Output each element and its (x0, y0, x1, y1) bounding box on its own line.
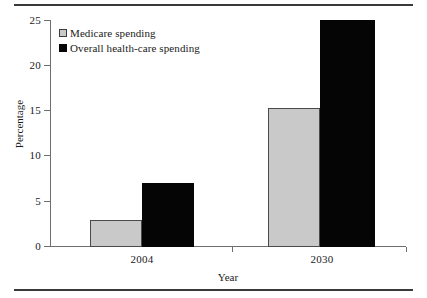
y-tick-label-0: 0 (11, 241, 41, 252)
legend-label-medicare: Medicare spending (70, 27, 156, 39)
x-axis-title: Year (50, 271, 406, 283)
bar-chart-plot-area: 0 5 10 15 20 25 2004 2030 Year Percentag… (0, 0, 427, 298)
x-end-tick (406, 247, 407, 252)
y-tick-mark-0 (44, 246, 50, 247)
legend-item-overall: Overall health-care spending (59, 41, 200, 55)
y-tick-mark-5 (44, 201, 50, 202)
y-tick-mark-15 (44, 110, 50, 111)
y-axis-line (50, 20, 51, 247)
chart-legend: Medicare spending Overall health-care sp… (59, 26, 200, 56)
y-tick-label-5: 5 (11, 196, 41, 207)
figure: 0 5 10 15 20 25 2004 2030 Year Percentag… (0, 0, 427, 298)
bar-overall-2030 (320, 20, 375, 247)
bar-overall-2004 (142, 183, 194, 247)
y-tick-mark-20 (44, 65, 50, 66)
y-axis-title: Percentage (13, 79, 25, 169)
y-tick-label-20: 20 (11, 60, 41, 71)
y-tick-label-25: 25 (11, 15, 41, 26)
bar-medicare-2004 (90, 220, 142, 247)
x-tick-label-2004: 2004 (107, 253, 177, 265)
legend-swatch-black-square-icon (59, 44, 67, 52)
y-tick-mark-10 (44, 155, 50, 156)
x-separator-tick (232, 247, 233, 252)
x-tick-label-2030: 2030 (287, 253, 357, 265)
bar-medicare-2030 (268, 108, 320, 247)
legend-item-medicare: Medicare spending (59, 26, 200, 40)
legend-label-overall: Overall health-care spending (70, 42, 200, 54)
y-tick-mark-25 (44, 20, 50, 21)
legend-swatch-gray-square-icon (59, 29, 67, 37)
